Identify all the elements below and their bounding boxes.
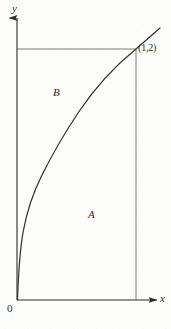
point-coordinate-label: (1,2): [138, 42, 156, 53]
region-label-b: B: [53, 86, 60, 98]
origin-label: 0: [7, 302, 13, 314]
region-label-a: A: [88, 208, 95, 220]
y-axis-label: y: [12, 2, 17, 14]
reference-lines-group: [17, 49, 136, 300]
x-axis-label: x: [160, 292, 165, 304]
curve-y-equals-two-sqrt-x: [18, 28, 161, 300]
